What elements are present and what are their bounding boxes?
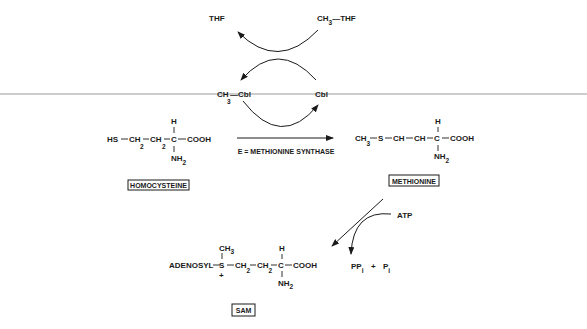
arc-cbl-methylation-arrow <box>241 59 316 80</box>
cbl-label: Cbl <box>315 90 328 99</box>
svg-text:CH2: CH2 <box>257 261 273 274</box>
svg-text:H: H <box>171 117 177 126</box>
enzyme-label: E = METHIONINE SYNTHASE <box>238 148 335 155</box>
svg-text:S: S <box>378 134 384 143</box>
arc-thf-arrow <box>238 30 318 52</box>
svg-text:C: C <box>278 261 284 270</box>
svg-text:S: S <box>219 261 225 270</box>
svg-text:H: H <box>435 117 441 126</box>
svg-text:NH2: NH2 <box>171 154 187 166</box>
svg-text:CH: CH <box>129 135 141 144</box>
svg-text:NH2: NH2 <box>278 279 294 290</box>
homocysteine-label: HOMOCYSTEINE <box>130 182 187 189</box>
pi-label: Pi <box>383 262 390 274</box>
sam-label: SAM <box>236 307 252 314</box>
svg-text:H: H <box>279 244 285 253</box>
svg-text:CH3: CH3 <box>219 244 235 255</box>
svg-text:2: 2 <box>140 143 144 150</box>
svg-text:CH: CH <box>414 134 426 143</box>
ppi-label: PPi <box>351 262 364 274</box>
methionine-label: METHIONINE <box>392 178 436 185</box>
methionine-cycle-diagram: THF CH3—THF CH3—Cbl Cbl HS CH 2 CH 2 C C… <box>0 0 587 329</box>
svg-text:COOH: COOH <box>187 135 211 144</box>
plus-sign: + <box>371 262 376 271</box>
svg-text:CH2: CH2 <box>235 261 251 274</box>
svg-text:+: + <box>219 271 224 280</box>
methyl-thf-label: CH3—THF <box>317 14 356 26</box>
atp-to-ppi-arrow <box>351 214 391 254</box>
svg-text:C: C <box>171 135 177 144</box>
arc-cbl-demethylation-arrow <box>243 101 318 127</box>
svg-text:COOH: COOH <box>293 261 317 270</box>
svg-text:C: C <box>434 134 440 143</box>
svg-text:CH: CH <box>150 135 162 144</box>
homocysteine-structure: HS CH 2 CH 2 C COOH H NH2 <box>107 117 211 166</box>
thf-label: THF <box>209 14 225 23</box>
svg-text:HS: HS <box>107 135 119 144</box>
svg-text:ADENOSYL: ADENOSYL <box>169 261 214 270</box>
methionine-to-sam-arrow <box>332 199 383 246</box>
svg-text:CH: CH <box>393 134 405 143</box>
svg-text:COOH: COOH <box>450 134 474 143</box>
svg-text:NH2: NH2 <box>434 152 450 164</box>
methionine-structure: CH3 S CH CH C COOH H NH2 <box>355 117 474 164</box>
sam-structure: ADENOSYL S + CH3 CH2 CH2 C H COOH NH2 <box>169 244 317 290</box>
atp-label: ATP <box>397 211 413 220</box>
svg-text:2: 2 <box>162 143 166 150</box>
svg-text:CH3: CH3 <box>355 134 371 147</box>
methyl-cbl-label: CH3—Cbl <box>217 90 251 105</box>
